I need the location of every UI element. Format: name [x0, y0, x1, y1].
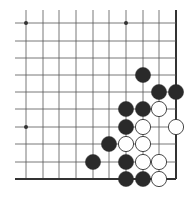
black-stone	[118, 119, 133, 134]
white-stone	[118, 136, 133, 151]
white-stone	[168, 119, 183, 134]
white-stone	[135, 154, 150, 169]
white-stone	[151, 171, 166, 186]
go-board	[0, 0, 196, 198]
black-stone	[168, 84, 183, 99]
white-stone	[135, 119, 150, 134]
star-point	[124, 21, 128, 25]
black-stone	[135, 171, 150, 186]
star-point	[24, 125, 28, 129]
black-stone	[135, 67, 150, 82]
black-stone	[118, 101, 133, 116]
white-stone	[151, 154, 166, 169]
white-stone	[135, 136, 150, 151]
black-stone	[85, 154, 100, 169]
star-point	[24, 21, 28, 25]
black-stone	[101, 136, 116, 151]
white-stone	[151, 101, 166, 116]
black-stone	[118, 171, 133, 186]
black-stone	[151, 84, 166, 99]
black-stone	[118, 154, 133, 169]
black-stone	[135, 101, 150, 116]
